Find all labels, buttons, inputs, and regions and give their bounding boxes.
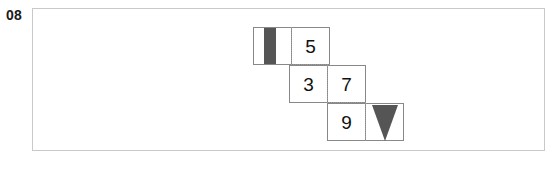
staircase-cell-r3c1[interactable]: 9 — [327, 103, 366, 141]
clipped-glyph: · — [178, 168, 183, 171]
staircase-cell-r2c2[interactable]: 7 — [327, 65, 366, 103]
cell-value: 3 — [303, 74, 314, 93]
clipped-next-row: · · · · · · — [0, 168, 553, 173]
staircase-cell-r3c2[interactable] — [365, 103, 404, 141]
answer-area-frame: 5 3 7 9 — [32, 8, 545, 151]
clipped-glyph: · — [268, 168, 273, 171]
number-staircase-diagram: 5 3 7 9 — [33, 9, 544, 150]
domino-row: 5 — [253, 27, 330, 65]
item-number-label: 08 — [6, 8, 22, 22]
cell-value: 7 — [341, 74, 352, 93]
clipped-glyph: · — [328, 168, 333, 171]
domino-row: 3 7 — [289, 65, 366, 103]
staircase-cell-r1c1[interactable] — [253, 27, 292, 65]
staircase-cell-r2c1[interactable]: 3 — [289, 65, 328, 103]
clipped-glyph: · — [478, 168, 483, 171]
vertical-bar-icon — [264, 28, 276, 64]
cell-value: 5 — [305, 36, 316, 55]
domino-row: 9 — [327, 103, 404, 141]
down-triangle-icon — [372, 105, 398, 141]
staircase-cell-r1c2[interactable]: 5 — [291, 27, 330, 65]
clipped-glyph: · — [418, 168, 423, 171]
clipped-glyph: · — [118, 168, 123, 171]
cell-value: 9 — [341, 112, 352, 131]
